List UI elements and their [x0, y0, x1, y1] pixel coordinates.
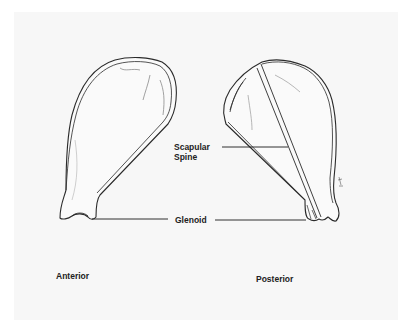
glenoid-label: Glenoid	[175, 215, 207, 225]
scapula-illustration	[0, 0, 405, 333]
posterior-view-label: Posterior	[256, 274, 293, 284]
scapular-spine-label: Scapular Spine	[174, 142, 210, 162]
diagram-canvas: Scapular Spine Glenoid Anterior Posterio…	[0, 0, 405, 333]
anterior-view-label: Anterior	[56, 271, 89, 281]
signature-mark	[338, 177, 343, 186]
posterior-scapula	[224, 60, 343, 221]
scapular-spine-line1: Scapular	[174, 142, 210, 152]
anterior-scapula	[60, 58, 176, 220]
scapular-spine-line2: Spine	[174, 152, 210, 162]
